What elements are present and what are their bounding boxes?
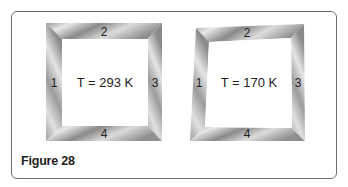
left-side-label-4: 4 (101, 127, 108, 141)
right-side-label-3: 3 (295, 76, 302, 90)
left-side-label-3: 3 (152, 76, 159, 90)
right-side-label-4: 4 (244, 127, 251, 141)
right-temperature-label: T = 170 K (221, 75, 278, 90)
right-side-label-1: 1 (196, 76, 203, 90)
left-side-label-2: 2 (101, 25, 108, 39)
right-side-label-2: 2 (244, 26, 251, 40)
figure-caption: Figure 28 (21, 154, 75, 168)
left-temperature-label: T = 293 K (77, 75, 134, 90)
left-side-label-1: 1 (51, 76, 58, 90)
